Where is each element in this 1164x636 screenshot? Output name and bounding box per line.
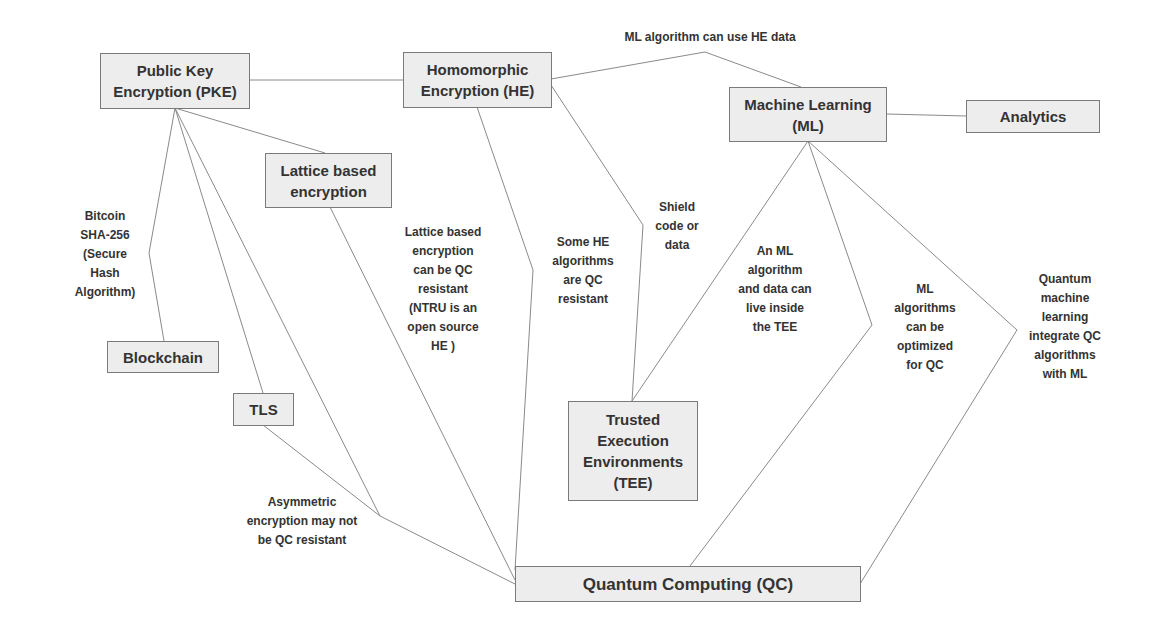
edge-ml-analytics [886,114,966,116]
node-analytics: Analytics [966,100,1100,133]
label-asymmetric-not-qc-resistant: Asymmetric encryption may not be QC resi… [232,493,372,550]
node-homomorphic-encryption: Homomorphic Encryption (HE) [403,52,552,108]
label-lattice-qc-resistant: Lattice based encryption can be QC resis… [388,223,498,356]
node-blockchain: Blockchain [107,341,219,373]
label-quantum-machine-learning: Quantum machine learning integrate QC al… [1015,270,1115,384]
node-tls: TLS [233,393,294,426]
label-ml-can-use-he-data: ML algorithm can use HE data [595,28,825,47]
node-quantum-computing: Quantum Computing (QC) [515,566,861,602]
edge-pke-lattice [175,108,325,153]
label-some-he-qc-resistant: Some HE algorithms are QC resistant [538,233,628,309]
node-lattice-based-encryption: Lattice based encryption [265,153,392,208]
node-public-key-encryption: Public Key Encryption (PKE) [100,53,250,109]
label-shield-code-or-data: Shield code or data [642,198,712,255]
label-ml-optimized-for-qc: ML algorithms can be optimized for QC [880,280,970,375]
edge-he-ml [551,52,801,87]
edge-ml-qc [690,141,872,566]
node-trusted-execution-environments: Trusted Execution Environments (TEE) [568,401,698,501]
edge-pke-blockchain [149,108,175,341]
label-ml-inside-tee: An ML algorithm and data can live inside… [725,242,825,337]
label-bitcoin-sha256: Bitcoin SHA-256 (Secure Hash Algorithm) [60,207,150,302]
node-machine-learning: Machine Learning (ML) [729,87,887,142]
